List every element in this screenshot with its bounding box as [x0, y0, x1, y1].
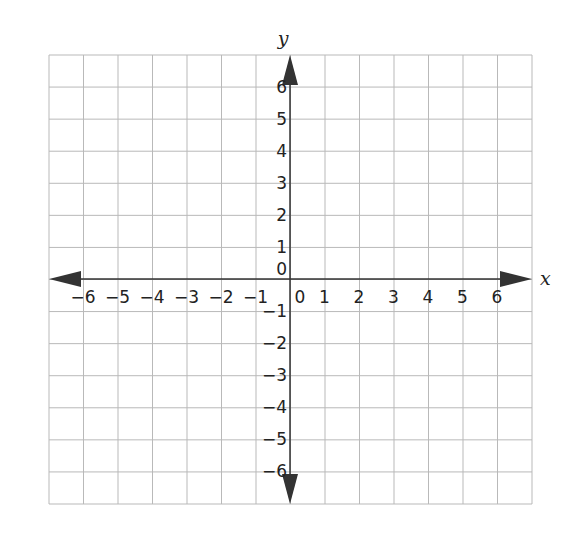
- y-tick-label: −4: [262, 397, 287, 417]
- y-tick-label: 0: [276, 259, 287, 279]
- y-tick-label: 6: [276, 77, 287, 97]
- y-tick-label: −6: [262, 461, 287, 481]
- y-tick-label: 1: [276, 237, 287, 257]
- arrow-left-icon: [49, 271, 81, 287]
- arrow-right-icon: [500, 271, 532, 287]
- y-tick-label: −1: [262, 301, 287, 321]
- x-tick-label: 3: [388, 287, 399, 307]
- x-tick-label: −3: [174, 287, 199, 307]
- x-tick-label: −5: [105, 287, 130, 307]
- axes: [49, 55, 532, 504]
- y-tick-label: 2: [276, 205, 287, 225]
- x-tick-label: 1: [319, 287, 330, 307]
- y-tick-label: −2: [262, 333, 287, 353]
- y-axis-title: y: [277, 27, 289, 49]
- x-tick-label: −2: [208, 287, 233, 307]
- coordinate-plane: −6−5−4−3−2−10123456 6543210−1−2−3−4−5−6 …: [0, 0, 581, 538]
- x-tick-label: 0: [295, 287, 306, 307]
- x-tick-label: −4: [139, 287, 164, 307]
- x-tick-label: 5: [457, 287, 468, 307]
- x-tick-label: 4: [423, 287, 434, 307]
- x-tick-label: 2: [354, 287, 365, 307]
- y-tick-label: −5: [262, 429, 287, 449]
- x-axis-title: x: [540, 267, 551, 289]
- y-tick-label: 3: [276, 173, 287, 193]
- y-tick-label: −3: [262, 365, 287, 385]
- y-tick-label: 4: [276, 141, 287, 161]
- y-tick-label: 5: [276, 109, 287, 129]
- x-tick-label: −6: [70, 287, 95, 307]
- x-tick-label: 6: [492, 287, 503, 307]
